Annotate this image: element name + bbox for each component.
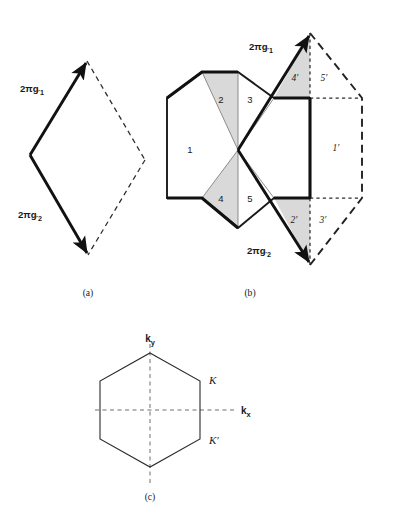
panel-b-region-1-label: 1	[187, 144, 192, 155]
panel-c-label-k: K	[208, 374, 217, 386]
panel-b-region-3-label: 3	[247, 94, 252, 105]
panel-b-region-5-label: 5	[247, 193, 252, 204]
panel-b-label-g2: 2πg→2	[247, 245, 271, 259]
panel-a-vector-g2	[30, 155, 87, 253]
panel-c-label-kx: kx	[241, 405, 252, 419]
panel-b-region-4p-label: 4′	[292, 73, 300, 83]
panel-b-region-2-label: 2	[218, 94, 223, 105]
panel-b-region-1p-label: 1′	[333, 143, 341, 153]
panel-b-region-5p-label: 5′	[321, 73, 329, 83]
panel-b-region-4-label: 4	[218, 193, 223, 204]
panel-a-dashed-edge-top	[87, 61, 145, 160]
panel-b-region-3p-label: 3′	[319, 215, 328, 225]
panel-a-label-g2: 2πg→2	[18, 209, 42, 223]
panel-a-caption: (a)	[83, 287, 94, 299]
panel-a-dashed-edge-bottom	[88, 160, 145, 255]
panel-b-caption: (b)	[244, 287, 255, 299]
panel-a-label-g1: 2πg→1	[20, 83, 44, 97]
figure-canvas: 2πg→1 2πg→2 (a)	[0, 0, 407, 513]
panel-c-label-ky: ky	[145, 333, 156, 347]
panel-a-vector-g1	[30, 63, 86, 155]
panel-b-label-g1: 2πg→1	[249, 41, 273, 55]
panel-a: 2πg→1 2πg→2 (a)	[18, 61, 145, 299]
panel-b: 1 2 3 4 5 1′ 2′ 3′ 4′ 5′ 2πg→1 2πg→2 (b)	[167, 33, 362, 299]
panel-c-caption: (c)	[145, 491, 156, 503]
figure-root: 2πg→1 2πg→2 (a)	[0, 0, 407, 513]
panel-b-region-2p-label: 2′	[291, 215, 299, 225]
panel-c: ky kx K K′ (c)	[95, 333, 252, 503]
panel-c-label-k-prime: K′	[208, 434, 219, 446]
